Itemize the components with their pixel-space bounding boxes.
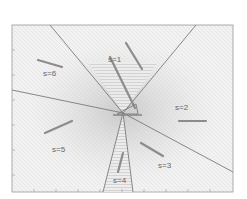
- region-label-s5: s=5: [52, 145, 66, 154]
- region-label-s1: s=1: [108, 55, 122, 64]
- region-partition-diagram: s=1s=2s=3s=4s=5s=6: [0, 0, 247, 199]
- region-label-s3: s=3: [158, 161, 172, 170]
- region-label-s6: s=6: [43, 69, 57, 78]
- region-label-s2: s=2: [175, 103, 189, 112]
- region-label-s4: s=4: [113, 176, 127, 185]
